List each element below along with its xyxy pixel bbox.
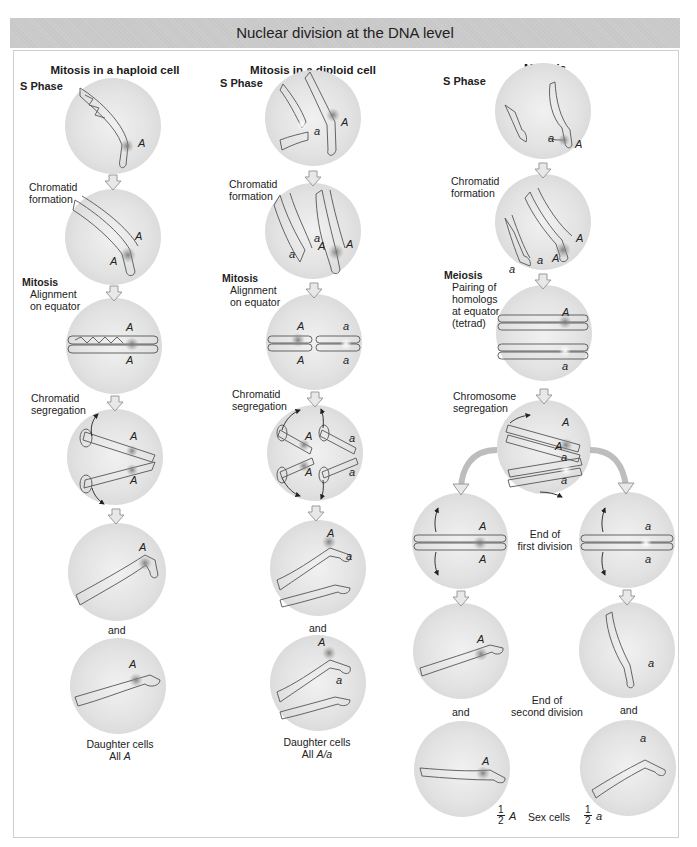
label-line: Chromatid	[29, 181, 77, 193]
arrow-down-icon	[305, 171, 321, 186]
arrow-down-icon	[105, 175, 121, 190]
diagram-graphics	[0, 0, 697, 847]
allele-label: A	[552, 252, 559, 264]
fraction-denominator: 2	[585, 815, 591, 826]
label-line: Chromosome	[453, 390, 516, 402]
allele-label: A	[346, 238, 353, 250]
allele-label: A	[482, 755, 489, 767]
label-line: Meiosis	[444, 269, 499, 281]
label-meiosis-pairing: Meiosis Pairing of homologs at equator (…	[444, 269, 499, 329]
arrow-down-icon	[619, 590, 635, 605]
fraction-one-half: 1 2	[497, 805, 505, 826]
label-and: and	[309, 622, 327, 634]
label-line: Chromatid	[31, 392, 86, 404]
label-line: Daughter cells	[80, 738, 160, 750]
label-line: formation	[229, 190, 277, 202]
label-chromatid-formation: Chromatid formation	[29, 181, 77, 205]
label-line: formation	[451, 187, 499, 199]
arrow-down-icon	[306, 283, 322, 298]
label-line: segregation	[232, 400, 287, 412]
label-line: on equator	[22, 300, 80, 312]
arrow-down-icon	[108, 509, 124, 524]
arrow-down-icon	[536, 389, 552, 404]
label-line: Pairing of	[444, 281, 499, 293]
arrow-down-icon	[307, 392, 323, 407]
allele-label: A	[479, 553, 486, 565]
allele-label: A	[479, 520, 486, 532]
label-chromosome-segregation: Chromosome segregation	[453, 390, 516, 414]
allele-label: A	[139, 541, 146, 553]
allele-label: A	[509, 810, 516, 822]
label-line: End of	[509, 694, 585, 706]
centromere-markers	[120, 108, 652, 780]
label-line: Daughter cells	[277, 736, 357, 748]
allele-label: A	[318, 636, 325, 648]
label-line: Alignment	[22, 288, 80, 300]
label-line: segregation	[453, 402, 516, 414]
arrow-down-icon	[453, 591, 469, 606]
allele-label: a	[640, 732, 646, 744]
label-end-first-division: End of first division	[515, 528, 575, 552]
allele-label: a	[289, 248, 295, 260]
allele-label: a	[548, 132, 554, 144]
allele-label: a	[645, 553, 651, 565]
label-s-phase: S Phase	[20, 80, 63, 92]
allele-label: A	[327, 527, 334, 539]
label-line: second division	[509, 706, 585, 718]
label-chromatid-segregation: Chromatid segregation	[31, 392, 86, 416]
fraction-one-half: 1 2	[584, 805, 592, 826]
label-mitosis-alignment: Mitosis Alignment on equator	[222, 272, 280, 308]
label-chromatid-formation: Chromatid formation	[229, 178, 277, 202]
allele-label: A	[130, 474, 137, 486]
allele-label: a	[645, 520, 651, 532]
allele-label: a	[343, 320, 349, 332]
allele-label: A	[305, 466, 312, 478]
allele-label: a	[349, 466, 355, 478]
allele-label: a	[346, 550, 352, 562]
allele-label: A	[562, 416, 569, 428]
label-s-phase: S Phase	[443, 75, 486, 87]
allele-label: a	[314, 232, 320, 244]
label-line: (tetrad)	[444, 317, 499, 329]
allele-label: A	[110, 255, 117, 267]
label-chromatid-formation: Chromatid formation	[451, 175, 499, 199]
label-and: and	[108, 624, 126, 636]
arrow-down-icon	[308, 506, 324, 521]
allele-label: a	[314, 125, 320, 137]
allele-label: a	[537, 254, 543, 266]
label-line: Chromatid	[229, 178, 277, 190]
arrow-down-icon	[535, 274, 551, 289]
label-line: first division	[515, 540, 575, 552]
allele-label: A	[135, 230, 142, 242]
label-end-second-division: End of second division	[509, 694, 585, 718]
arrow-down-icon	[106, 286, 122, 301]
label-daughter-cells: Daughter cells All A/a	[277, 736, 357, 760]
label-mitosis-alignment: Mitosis Alignment on equator	[22, 276, 80, 312]
allele-label: A	[576, 232, 583, 244]
label-s-phase: S Phase	[220, 77, 263, 89]
label-line: Alignment	[222, 284, 280, 296]
label-daughter-cells: Daughter cells All A	[80, 738, 160, 762]
allele-label: a	[336, 674, 342, 686]
label-line: Mitosis	[222, 272, 280, 284]
arrow-down-icon	[107, 396, 123, 411]
label-line: formation	[29, 193, 77, 205]
allele-label: A	[297, 320, 304, 332]
label-line: Chromatid	[451, 175, 499, 187]
label-and: and	[452, 706, 470, 718]
allele-label: A	[130, 430, 137, 442]
allele-label: A	[562, 306, 569, 318]
allele-label: a	[343, 354, 349, 366]
allele-label: A	[129, 658, 136, 670]
allele-label: a	[349, 432, 355, 444]
allele-label: a	[562, 360, 568, 372]
label-chromatid-segregation: Chromatid segregation	[232, 388, 287, 412]
label-line: segregation	[31, 404, 86, 416]
fraction-denominator: 2	[498, 815, 504, 826]
allele-label: A	[126, 354, 133, 366]
label-sex-cells: Sex cells	[528, 811, 570, 823]
label-and: and	[620, 704, 638, 716]
label-line: on equator	[222, 296, 280, 308]
label-line: Mitosis	[22, 276, 80, 288]
label-line: Chromatid	[232, 388, 287, 400]
